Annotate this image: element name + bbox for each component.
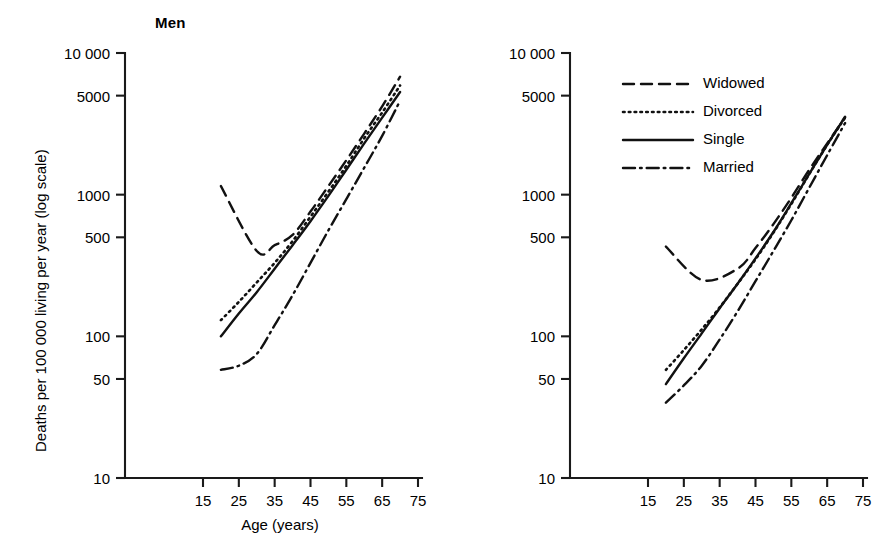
y-tick-label: 5000 (465, 87, 555, 104)
y-tick-label: 10 (20, 470, 110, 487)
x-tick-label: 35 (711, 492, 728, 509)
legend-label-single: Single (703, 130, 745, 147)
x-tick-label: 25 (675, 492, 692, 509)
legend-label-widowed: Widowed (703, 74, 765, 91)
series-line-single (221, 92, 400, 336)
x-tick-label: 65 (374, 492, 391, 509)
chart-panel-men: Men Deaths per 100 000 living per year (… (0, 0, 445, 551)
y-tick-label: 5000 (20, 87, 110, 104)
x-tick-label: 25 (230, 492, 247, 509)
y-tick-label: 500 (20, 229, 110, 246)
x-tick-label: 35 (266, 492, 283, 509)
x-tick-label: 75 (410, 492, 427, 509)
legend-swatches (445, 0, 890, 551)
y-tick-label: 50 (20, 370, 110, 387)
x-tick-label: 15 (640, 492, 657, 509)
y-tick-label: 10 000 (20, 45, 110, 62)
plot-area-men (0, 0, 445, 551)
x-tick-label: 45 (302, 492, 319, 509)
y-tick-label: 100 (465, 328, 555, 345)
y-tick-label: 1000 (20, 186, 110, 203)
chart-panel-women: Women Deaths per 100 000 living per year… (445, 0, 890, 551)
x-tick-label: 65 (819, 492, 836, 509)
y-tick-label: 10 000 (465, 45, 555, 62)
legend-label-married: Married (703, 158, 754, 175)
mortality-figure: Men Deaths per 100 000 living per year (… (0, 0, 890, 551)
x-tick-label: 75 (855, 492, 872, 509)
x-tick-label: 45 (747, 492, 764, 509)
y-tick-label: 50 (465, 370, 555, 387)
x-tick-label: 55 (783, 492, 800, 509)
y-tick-label: 500 (465, 229, 555, 246)
y-tick-label: 100 (20, 328, 110, 345)
legend-label-divorced: Divorced (703, 102, 762, 119)
x-tick-label: 15 (195, 492, 212, 509)
y-tick-label: 10 (465, 470, 555, 487)
series-line-widowed (221, 77, 400, 255)
x-tick-label: 55 (338, 492, 355, 509)
y-tick-label: 1000 (465, 186, 555, 203)
